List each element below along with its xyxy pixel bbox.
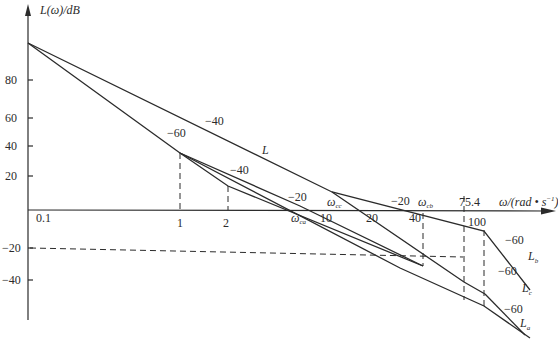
- x-tick-0.1: 0.1: [36, 211, 51, 225]
- curve-L-b: [28, 43, 530, 290]
- curves: [28, 43, 530, 338]
- x-tick-2: 2: [223, 216, 229, 230]
- slope-label-60: −60: [167, 126, 186, 140]
- slope-label-40-top: −40: [205, 114, 224, 128]
- curve-L-c-part1: [28, 43, 423, 266]
- y-axis-arrow-icon: [25, 4, 31, 16]
- curve-label-L: L: [261, 143, 269, 157]
- curve-L-a: [180, 153, 530, 338]
- crossover-label-ca: ωca: [291, 211, 307, 226]
- y-tick-20: 20: [5, 169, 17, 183]
- slope-label-60-b: −60: [505, 233, 524, 247]
- curve-label-La: La: [519, 316, 531, 332]
- y-tick-80: 80: [5, 73, 17, 87]
- slope-label-60-a: −60: [504, 302, 523, 316]
- crossover-label-cb: ωcb: [418, 195, 434, 210]
- curve-label-Lb: Lb: [527, 249, 539, 265]
- slope-label-20a: −20: [288, 190, 307, 204]
- x-axis-title: ω/(rad • s−1): [499, 195, 558, 209]
- slope-label-40: −40: [230, 163, 249, 177]
- curve-label-Lc: Lc: [521, 281, 533, 297]
- reference-lines: [30, 153, 484, 306]
- y-axis-title: L(ω)/dB: [39, 3, 80, 17]
- curve-inner: [180, 153, 423, 266]
- y-tick-60: 60: [5, 111, 17, 125]
- axes: [25, 4, 556, 320]
- x-tick-75.4: 75.4: [459, 195, 480, 209]
- slope-label-20b: −20: [391, 194, 410, 208]
- y-tick-m40: −40: [2, 273, 21, 287]
- bode-plot: L(ω)/dB 80 60 40 20 −20 −40 0.1 1 2 10 2…: [0, 0, 558, 343]
- y-tick-40: 40: [5, 139, 17, 153]
- slope-label-60-c: −60: [498, 264, 517, 278]
- x-tick-100: 100: [468, 215, 486, 229]
- y-tick-m20: −20: [2, 241, 21, 255]
- x-tick-1: 1: [177, 216, 183, 230]
